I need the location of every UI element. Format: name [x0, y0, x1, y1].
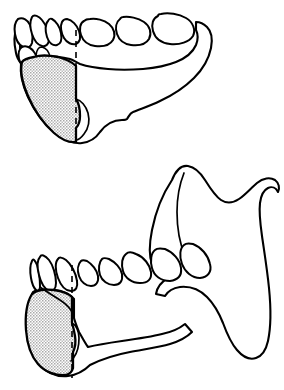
figure-root: Mandible with shaded symphyseal bone gra…: [0, 0, 284, 390]
tooth-premolar-2-lateral: [99, 258, 122, 285]
tooth-premolar-1-occlusal: [46, 19, 62, 46]
panel-top-occlusal-view: [10, 13, 212, 155]
tooth-premolar-2-occlusal: [61, 19, 80, 44]
tooth-molar-3-occlusal: [152, 13, 194, 44]
tooth-molar-2-occlusal: [116, 17, 150, 46]
tooth-canine-lateral: [56, 258, 78, 291]
mandible-illustration-canvas: [0, 0, 284, 390]
tooth-molar-1-occlusal: [80, 19, 114, 47]
panel-bottom-lateral-view: [18, 166, 279, 385]
tooth-molar-1-lateral: [122, 253, 151, 284]
tooth-premolar-1-lateral: [78, 260, 98, 286]
